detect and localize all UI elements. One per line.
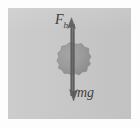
buoyant-force-label-base: F <box>55 12 64 27</box>
buoyant-force-label: Fb <box>55 13 68 30</box>
figure-plate: Fb mg <box>8 8 131 119</box>
weight-label: mg <box>77 86 94 100</box>
buoyant-force-label-subscript: b <box>64 20 69 30</box>
figure-root: Fb mg <box>0 0 140 128</box>
free-body-diagram <box>8 8 131 119</box>
